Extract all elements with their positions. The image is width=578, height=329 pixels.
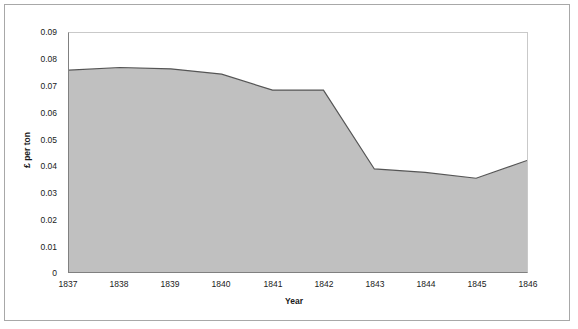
- y-tick-label: 0.03: [40, 189, 57, 198]
- y-tick-label: 0.04: [40, 162, 57, 171]
- y-tick-label: 0.09: [40, 28, 57, 37]
- x-tick-label: 1843: [355, 279, 395, 289]
- y-tick-label: 0.08: [40, 55, 57, 64]
- x-tick-label: 1840: [201, 279, 241, 289]
- y-tick-label: 0.07: [40, 82, 57, 91]
- x-tick-label: 1837: [48, 279, 88, 289]
- plot-area: [68, 32, 528, 273]
- x-tick-label: 1842: [304, 279, 344, 289]
- y-tick-label: 0.02: [40, 216, 57, 225]
- x-tick-label: 1846: [508, 279, 548, 289]
- y-tick-label: 0: [52, 269, 57, 278]
- y-axis-title: £ per ton: [22, 110, 32, 190]
- y-tick-label: 0.05: [40, 136, 57, 145]
- y-tick-label: 0.01: [40, 243, 57, 252]
- y-tick-label: 0.06: [40, 109, 57, 118]
- x-axis-title: Year: [5, 296, 578, 306]
- x-tick-label: 1839: [150, 279, 190, 289]
- area-series-fill: [69, 68, 527, 272]
- x-tick-label: 1838: [99, 279, 139, 289]
- x-tick-label: 1844: [406, 279, 446, 289]
- chart-frame: 0.09 0.08 0.07 0.06 0.05 0.04 0.03 0.02 …: [4, 4, 570, 321]
- x-tick-label: 1841: [253, 279, 293, 289]
- x-tick-label: 1845: [457, 279, 497, 289]
- area-chart-svg: [69, 33, 527, 272]
- x-axis-tick-labels: 1837 1838 1839 1840 1841 1842 1843 1844 …: [5, 279, 578, 293]
